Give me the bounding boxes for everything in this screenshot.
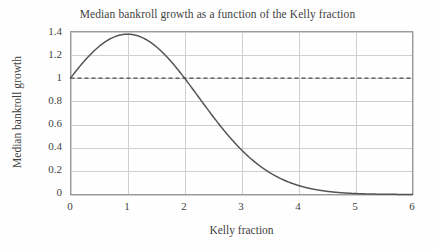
chart-figure: Median bankroll growth as a function of … xyxy=(0,0,435,249)
gridlines xyxy=(71,32,414,196)
plot-area xyxy=(0,0,435,249)
median-growth-curve xyxy=(71,34,413,194)
